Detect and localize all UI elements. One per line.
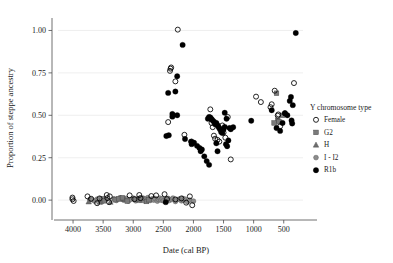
data-point	[174, 74, 179, 79]
legend-item-label: I - I2	[324, 154, 339, 162]
x-tick-label: 1500	[216, 225, 232, 234]
scatter-plot-figure: 4000350030002500200015001000500 0.000.25…	[0, 0, 393, 263]
data-point	[289, 121, 294, 126]
x-tick-label: 2000	[185, 225, 201, 234]
x-tick-label: 2500	[155, 225, 171, 234]
x-tick-label: 500	[278, 225, 290, 234]
data-point	[120, 195, 125, 200]
data-point	[314, 130, 319, 135]
data-point	[206, 162, 211, 167]
data-point	[222, 110, 227, 115]
data-point	[314, 155, 319, 160]
data-point	[290, 102, 295, 107]
data-point	[173, 89, 178, 94]
data-point	[226, 138, 231, 143]
y-tick-label: 0.75	[32, 69, 46, 78]
x-tick-label: 1000	[246, 225, 262, 234]
legend-item-label: G2	[324, 129, 333, 137]
data-point	[272, 121, 277, 126]
data-point	[293, 30, 298, 35]
legend-item-label: Female	[324, 116, 345, 124]
x-tick-label: 3000	[125, 225, 141, 234]
legend-title: Y chromosome type	[310, 103, 372, 112]
data-point	[285, 113, 290, 118]
data-point	[180, 42, 185, 47]
data-point	[224, 143, 229, 148]
data-point	[166, 133, 171, 138]
data-point	[230, 124, 235, 129]
chart-canvas: 4000350030002500200015001000500 0.000.25…	[0, 0, 393, 263]
y-tick-label: 0.00	[32, 196, 46, 205]
x-tick-label: 4000	[65, 225, 81, 234]
y-tick-label: 0.25	[32, 154, 46, 163]
data-point	[280, 120, 285, 125]
x-tick-label: 3500	[95, 225, 111, 234]
data-point	[174, 113, 179, 118]
data-point	[202, 154, 207, 159]
data-point	[199, 147, 204, 152]
y-axis-title: Proportion of steppe ancestry	[5, 67, 15, 168]
data-point	[214, 141, 219, 146]
data-point	[165, 90, 170, 95]
data-point	[163, 199, 168, 204]
y-tick-label: 0.50	[32, 111, 46, 120]
data-point	[313, 168, 318, 173]
data-point	[182, 136, 187, 141]
data-point	[102, 199, 107, 204]
data-point	[215, 149, 220, 154]
data-point	[170, 114, 175, 119]
data-point	[125, 199, 130, 204]
data-point	[224, 116, 229, 121]
data-point	[269, 108, 274, 113]
legend-item-label: H	[324, 141, 329, 149]
data-point	[222, 124, 227, 129]
legend-item-label: R1b	[324, 166, 336, 174]
data-point	[277, 128, 282, 133]
data-point	[288, 94, 293, 99]
y-tick-label: 1.00	[32, 26, 46, 35]
data-point	[249, 118, 254, 123]
x-axis-title: Date (cal BP)	[163, 245, 209, 255]
figure-background	[0, 0, 393, 263]
